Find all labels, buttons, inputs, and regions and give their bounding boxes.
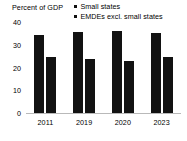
bar-emdes-excl-small-states — [163, 57, 173, 113]
bar-group — [69, 23, 99, 113]
x-axis: 2011 2019 2020 2023 — [26, 118, 181, 127]
bar-emdes-excl-small-states — [124, 61, 134, 113]
x-axis-tick-label: 2011 — [30, 118, 60, 127]
bar-small-states — [112, 31, 122, 113]
y-axis-tick-label: 30 — [13, 42, 21, 50]
legend-item-small-states: Small states — [74, 2, 163, 11]
square-marker-icon — [74, 5, 77, 8]
bar-small-states — [151, 33, 161, 113]
bar-groups — [26, 23, 181, 113]
bar-group — [30, 23, 60, 113]
plot-area — [26, 23, 181, 114]
legend-label: Small states — [80, 2, 120, 11]
bar-small-states — [34, 35, 44, 113]
bar-group — [108, 23, 138, 113]
square-marker-icon — [74, 15, 77, 18]
bar-emdes-excl-small-states — [46, 57, 56, 113]
x-axis-tick-label: 2023 — [147, 118, 177, 127]
y-axis-tick-label: 40 — [13, 19, 21, 27]
chart-legend: Small states EMDEs excl. small states — [74, 2, 163, 21]
x-axis-tick-label: 2020 — [108, 118, 138, 127]
legend-label: EMDEs excl. small states — [80, 12, 162, 21]
bar-small-states — [73, 32, 83, 113]
chart-axis-unit-title: Percent of GDP — [12, 3, 63, 12]
legend-item-emdes-excl-small-states: EMDEs excl. small states — [74, 12, 163, 21]
y-axis-tick-label: 10 — [13, 87, 21, 95]
y-axis-tick-label: 0 — [17, 110, 21, 118]
bar-chart: Percent of GDP Small states EMDEs excl. … — [0, 0, 187, 141]
x-axis-baseline — [26, 113, 181, 114]
x-axis-tick-label: 2019 — [69, 118, 99, 127]
y-axis-tick-label: 20 — [13, 65, 21, 73]
bar-emdes-excl-small-states — [85, 59, 95, 113]
y-axis: 40 30 20 10 0 — [0, 23, 23, 114]
bar-group — [147, 23, 177, 113]
